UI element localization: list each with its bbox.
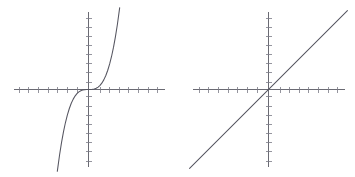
figure-container	[0, 0, 355, 177]
cubic-plot-svg	[0, 0, 177, 177]
plot-panel-linear	[178, 0, 355, 177]
linear-plot-svg	[178, 0, 355, 177]
plot-panel-cubic	[0, 0, 177, 177]
